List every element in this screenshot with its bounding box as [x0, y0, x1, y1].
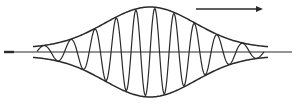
wave-packet-diagram	[0, 0, 295, 105]
wave-packet-figure	[0, 0, 295, 105]
envelope-lower	[33, 57, 268, 97]
direction-arrow	[196, 6, 263, 12]
arrow-right-icon	[256, 6, 263, 12]
